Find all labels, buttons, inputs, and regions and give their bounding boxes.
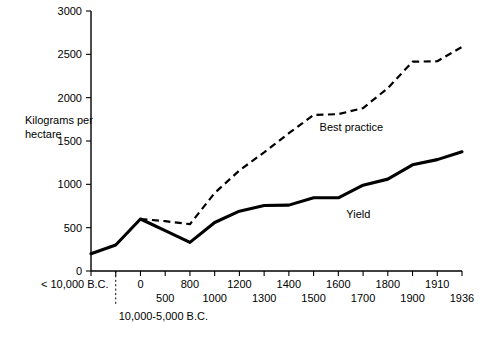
series-group	[91, 47, 462, 254]
y-tick-label: 3000	[58, 5, 82, 17]
y-tick-label: 2000	[58, 92, 82, 104]
x-tick-label-upper: 1400	[277, 278, 301, 290]
y-axis-title-line1: Kilograms per	[25, 114, 93, 126]
y-tick-label: 0	[76, 265, 82, 277]
annotation-group: Best practice Yield	[320, 121, 384, 220]
y-axis-title-line2: hectare	[25, 128, 62, 140]
x-tick-label-lower: 1936	[450, 292, 474, 304]
x-tick-label-lower: 1300	[252, 292, 276, 304]
y-axis-ticks: 050010001500200025003000	[58, 5, 91, 277]
x-axis-group	[91, 271, 462, 276]
x-tick-label-lower: 1000	[202, 292, 226, 304]
x-tick-label-upper: 1600	[326, 278, 350, 290]
yield-line	[91, 152, 462, 254]
y-tick-label: 2500	[58, 48, 82, 60]
best-practice-label: Best practice	[320, 121, 384, 133]
y-axis-group: 050010001500200025003000	[58, 5, 91, 277]
x-axis-labels-lower: 500100013001500170019001936	[156, 292, 474, 304]
y-axis-title-group: Kilograms per hectare	[25, 114, 93, 140]
yield-label: Yield	[346, 208, 370, 220]
best-practice-line	[140, 47, 462, 224]
era-note-label: 10,000-5,000 B.C.	[119, 310, 208, 322]
x-tick-label-upper: 0	[137, 278, 143, 290]
chart-container: 050010001500200025003000 Kilograms per h…	[0, 0, 485, 337]
x-tick-label-upper: 1200	[227, 278, 251, 290]
x-tick-label-upper: < 10,000 B.C.	[41, 278, 109, 290]
y-tick-label: 1000	[58, 178, 82, 190]
x-axis-ticks	[91, 271, 462, 276]
x-tick-label-upper: 1800	[376, 278, 400, 290]
x-tick-label-lower: 1900	[400, 292, 424, 304]
y-tick-label: 500	[64, 222, 82, 234]
line-chart-svg: 050010001500200025003000 Kilograms per h…	[0, 0, 485, 337]
x-axis-labels-upper: < 10,000 B.C.080012001400160018001910	[41, 278, 450, 290]
x-tick-label-upper: 1910	[425, 278, 449, 290]
x-tick-label-lower: 1500	[301, 292, 325, 304]
x-tick-label-upper: 800	[181, 278, 199, 290]
x-tick-label-lower: 1700	[351, 292, 375, 304]
x-tick-label-lower: 500	[156, 292, 174, 304]
